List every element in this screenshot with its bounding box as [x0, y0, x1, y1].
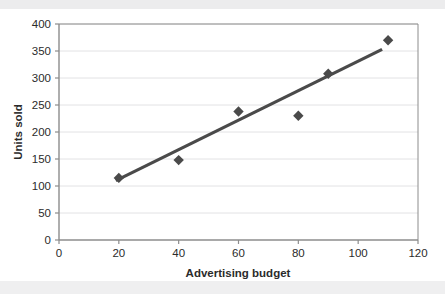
y-tick-label: 200: [32, 126, 51, 138]
x-tick-label: 80: [292, 247, 305, 259]
chart-figure: 050100150200250300350400 020406080100120…: [0, 0, 445, 294]
y-tick-label: 0: [45, 234, 51, 246]
y-axis-ticks: 050100150200250300350400: [32, 18, 59, 246]
x-axis-title: Advertising budget: [186, 267, 291, 279]
y-tick-label: 100: [32, 180, 51, 192]
scatter-plot: 050100150200250300350400 020406080100120…: [0, 0, 445, 294]
x-tick-label: 0: [56, 247, 62, 259]
x-tick-label: 120: [408, 247, 427, 259]
y-tick-label: 350: [32, 45, 51, 57]
x-tick-label: 20: [112, 247, 125, 259]
y-tick-label: 400: [32, 18, 51, 30]
x-tick-label: 60: [232, 247, 245, 259]
y-tick-label: 250: [32, 99, 51, 111]
y-tick-label: 50: [38, 207, 51, 219]
x-tick-label: 100: [349, 247, 368, 259]
x-axis-ticks: 020406080100120: [56, 240, 428, 259]
y-tick-label: 150: [32, 153, 51, 165]
x-tick-label: 40: [172, 247, 185, 259]
y-tick-label: 300: [32, 72, 51, 84]
y-axis-title: Units sold: [12, 104, 24, 160]
